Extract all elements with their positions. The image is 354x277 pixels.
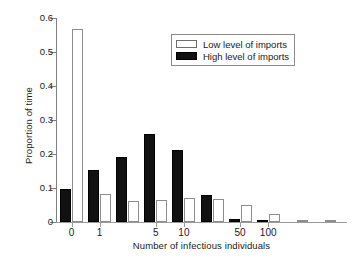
filled-square-swatch: [176, 52, 197, 60]
y-tick-label: 0: [48, 216, 53, 227]
x-tick-label: 1: [97, 227, 103, 238]
bar-low-5-9: [156, 200, 167, 222]
open-square-swatch: [176, 40, 197, 48]
y-tick-label: 0.1: [40, 182, 53, 193]
y-tick-label: 0.2: [40, 148, 53, 159]
bar-low-50-99: [241, 205, 252, 222]
bar-high-10-19: [172, 150, 183, 222]
chart-figure: Proportion of time 00.10.20.30.40.50.6 0…: [0, 0, 354, 277]
y-tick-label: 0.3: [40, 114, 53, 125]
legend-entry-low: Low level of imports: [176, 38, 289, 50]
y-axis-title: Proportion of time: [23, 36, 34, 216]
x-tick-label: 10: [178, 227, 189, 238]
y-tick-label: 0.6: [40, 12, 53, 23]
y-tick-label: 0.4: [40, 80, 53, 91]
legend-label-high: High level of imports: [203, 51, 289, 62]
y-axis-line: [56, 18, 57, 223]
bar-low-2-4: [128, 201, 139, 222]
bar-high-2-4: [116, 157, 127, 222]
bar-high-100-199: [257, 220, 268, 222]
bar-low-1: [100, 194, 111, 222]
bar-high-50-99: [229, 219, 240, 222]
legend-entry-high: High level of imports: [176, 50, 289, 62]
bar-low-0: [72, 29, 83, 222]
x-tick-label: 50: [235, 227, 246, 238]
bar-high-5-9: [144, 134, 155, 222]
bar-low-500+: [325, 220, 336, 222]
x-axis-title: Number of infectious individuals: [56, 240, 347, 251]
bar-low-200-499: [297, 220, 308, 222]
bar-high-1: [88, 170, 99, 222]
bar-low-100-199: [269, 214, 280, 222]
legend-label-low: Low level of imports: [203, 39, 287, 50]
bar-low-10-19: [184, 198, 195, 222]
bar-high-0: [60, 189, 71, 222]
bar-high-20-49: [201, 195, 212, 222]
y-tick-label: 0.5: [40, 46, 53, 57]
chart-legend: Low level of imports High level of impor…: [171, 34, 295, 66]
x-tick-label: 5: [153, 227, 159, 238]
bar-low-20-49: [213, 199, 224, 222]
x-tick-label: 100: [260, 227, 277, 238]
x-tick-label: 0: [69, 227, 75, 238]
